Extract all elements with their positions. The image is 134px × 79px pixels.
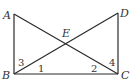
angle-label-3: 3: [18, 57, 24, 68]
vertex-label-e: E: [61, 27, 70, 40]
geometry-diagram: A D B C E 3 1 2 4: [0, 0, 134, 79]
vertex-label-c: C: [121, 69, 130, 79]
vertex-label-b: B: [1, 69, 10, 79]
vertex-label-d: D: [119, 7, 129, 20]
vertex-label-a: A: [2, 9, 11, 22]
angle-label-4: 4: [109, 57, 115, 68]
angle-label-1: 1: [38, 63, 44, 74]
angle-label-2: 2: [91, 63, 97, 74]
